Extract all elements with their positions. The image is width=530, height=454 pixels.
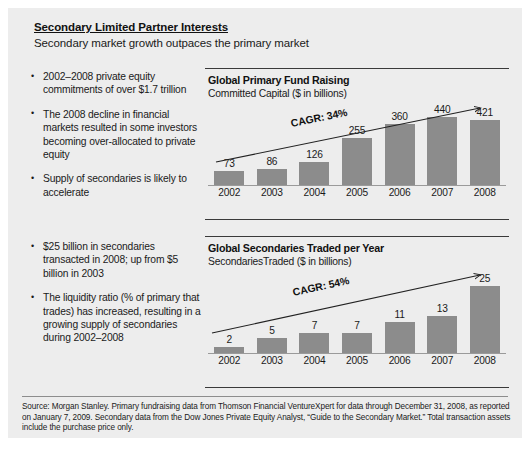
chart-subtitle: SecondariesTraded ($ in billions) — [208, 256, 352, 267]
cagr-trend-arrow-icon — [208, 272, 506, 372]
page-subtitle: Secondary market growth outpaces the pri… — [34, 36, 504, 51]
chart-subtitle: Committed Capital ($ in billions) — [208, 88, 347, 99]
chart-plot-area: 2 5 7 7 11 — [208, 272, 506, 372]
cagr-trend-arrow-icon — [208, 104, 506, 204]
bullet-list-top: 2002–2008 private equity commitments of … — [30, 70, 202, 210]
panel-bottom-rule — [205, 387, 509, 388]
page-title: Secondary Limited Partner Interests — [34, 20, 504, 34]
chart-plot-area: 73 86 126 255 360 — [208, 104, 506, 204]
slide-canvas: Secondary Limited Partner Interests Seco… — [8, 8, 522, 438]
list-item: $25 billion in secondaries transacted in… — [30, 240, 202, 280]
footer-divider — [22, 396, 508, 397]
list-item: The liquidity ratio (% of primary that t… — [30, 291, 202, 345]
chart-title: Global Primary Fund Raising — [208, 74, 349, 86]
panel-top-rule — [205, 236, 509, 237]
source-footnote: Source: Morgan Stanley. Primary fundrais… — [22, 402, 514, 434]
bullet-list-bottom: $25 billion in secondaries transacted in… — [30, 240, 202, 356]
list-item: The 2008 decline in financial markets re… — [30, 108, 202, 162]
panel-bottom-rule — [205, 219, 509, 220]
list-item: Supply of secondaries is likely to accel… — [30, 172, 202, 199]
chart-panel-primary-fund-raising: Global Primary Fund Raising Committed Ca… — [205, 68, 509, 220]
chart-panel-secondaries-traded: Global Secondaries Traded per Year Secon… — [205, 236, 509, 388]
slide-header: Secondary Limited Partner Interests Seco… — [34, 20, 504, 51]
chart-title: Global Secondaries Traded per Year — [208, 242, 384, 254]
list-item: 2002–2008 private equity commitments of … — [30, 70, 202, 97]
panel-top-rule — [205, 68, 509, 69]
